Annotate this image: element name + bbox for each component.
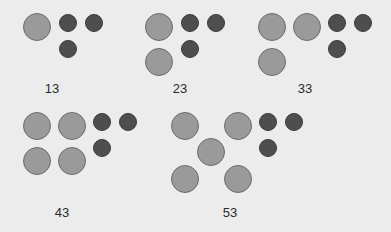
ones-circle — [259, 139, 277, 157]
ones-circle — [85, 14, 103, 32]
group-label: 33 — [298, 81, 312, 96]
ones-circle — [119, 113, 137, 131]
ones-circle — [207, 14, 225, 32]
ones-circle — [93, 113, 111, 131]
tens-circle — [293, 13, 321, 41]
tens-circle — [58, 147, 86, 175]
ones-circle — [328, 14, 346, 32]
tens-circle — [258, 13, 286, 41]
group-label: 23 — [173, 81, 187, 96]
tens-circle — [145, 13, 173, 41]
tens-circle — [23, 13, 51, 41]
ones-circle — [285, 113, 303, 131]
tens-circle — [258, 48, 286, 76]
ones-circle — [354, 14, 372, 32]
group-label: 53 — [223, 205, 237, 220]
number-representation-diagram: 13 23 33 43 53 — [0, 0, 391, 232]
ones-circle — [181, 40, 199, 58]
group-label: 43 — [55, 205, 69, 220]
ones-circle — [93, 139, 111, 157]
ones-circle — [328, 40, 346, 58]
tens-circle — [197, 138, 225, 166]
tens-circle — [58, 112, 86, 140]
ones-circle — [259, 113, 277, 131]
ones-circle — [59, 14, 77, 32]
group-label: 13 — [45, 81, 59, 96]
tens-circle — [171, 165, 199, 193]
tens-circle — [171, 112, 199, 140]
ones-circle — [59, 40, 77, 58]
ones-circle — [181, 14, 199, 32]
tens-circle — [145, 48, 173, 76]
tens-circle — [224, 165, 252, 193]
tens-circle — [224, 112, 252, 140]
tens-circle — [23, 112, 51, 140]
tens-circle — [23, 147, 51, 175]
